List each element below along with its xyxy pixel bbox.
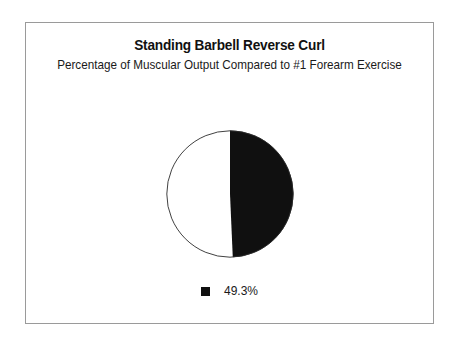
pie-chart-svg bbox=[165, 129, 295, 259]
pie-slice-remainder bbox=[167, 131, 233, 258]
chart-legend: 49.3% bbox=[26, 285, 433, 297]
pie-slice-primary bbox=[230, 131, 293, 258]
legend-swatch-icon bbox=[201, 287, 210, 296]
pie-chart bbox=[165, 129, 295, 259]
legend-item: 49.3% bbox=[201, 285, 258, 297]
chart-title: Standing Barbell Reverse Curl bbox=[38, 37, 421, 54]
chart-frame: Standing Barbell Reverse Curl Percentage… bbox=[25, 22, 434, 324]
legend-item-label: 49.3% bbox=[224, 285, 258, 297]
chart-subtitle: Percentage of Muscular Output Compared t… bbox=[34, 58, 425, 73]
title-block: Standing Barbell Reverse Curl Percentage… bbox=[26, 37, 433, 73]
